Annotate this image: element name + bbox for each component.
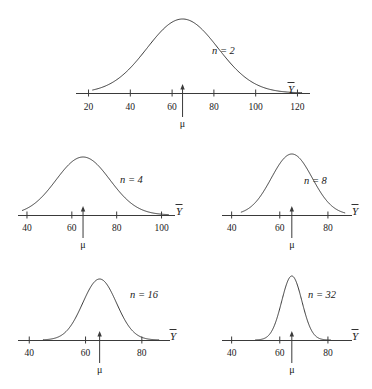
axis-tick-label: 80 [112, 223, 122, 233]
mu-arrow-head [290, 331, 294, 337]
svg-text:Y: Y [176, 205, 184, 217]
panel-n4: 406080100 μ n = 4 Y [0, 140, 190, 260]
mu-marker: μ [97, 331, 102, 375]
mu-label: μ [180, 118, 185, 129]
axis-tick-label: 80 [323, 223, 333, 233]
mu-marker: μ [289, 206, 294, 250]
mu-marker: μ [289, 331, 294, 375]
axis-tick-label: 40 [22, 223, 32, 233]
svg-text:Y: Y [170, 330, 178, 342]
mu-label: μ [80, 239, 85, 250]
axis-tick-label: 120 [290, 102, 305, 112]
curve-group-n2 [93, 19, 302, 93]
axis-tick-labels: 406080 [227, 348, 333, 358]
axis-tick-label: 60 [167, 102, 177, 112]
axis-tick-label: 40 [126, 102, 136, 112]
axis-tick-label: 60 [67, 223, 77, 233]
panel-n2: 20406080100120 μ n = 2 Y [0, 0, 372, 130]
sample-size-label: n = 8 [304, 175, 328, 186]
mu-arrow-head [180, 84, 184, 90]
y-bar-axis-label: Y [170, 330, 179, 343]
sampling-distribution-figure: 20406080100120 μ n = 2 Y 406080100 μ n =… [0, 0, 372, 389]
mu-marker: μ [180, 84, 185, 129]
axis-tick-labels: 406080100 [22, 223, 169, 233]
distribution-curve [241, 154, 345, 213]
axis-tick-label: 60 [81, 348, 91, 358]
axis-tick-label: 80 [137, 348, 147, 358]
axis-tick-labels: 406080 [25, 348, 147, 358]
mu-arrow-head [290, 206, 294, 212]
sample-size-label: n = 4 [120, 174, 144, 185]
axis-tick-label: 40 [227, 223, 237, 233]
axis-tick-label: 60 [275, 223, 285, 233]
distribution-curve [22, 157, 168, 215]
mu-label: μ [289, 239, 294, 250]
axis-tick-label: 40 [227, 348, 237, 358]
axis-tick-labels: 406080 [227, 223, 333, 233]
distribution-curve [93, 19, 302, 93]
axis-tick-label: 20 [84, 102, 94, 112]
axis-tick-labels: 20406080100120 [84, 102, 305, 112]
mu-label: μ [289, 364, 294, 375]
axis-tick-label: 60 [275, 348, 285, 358]
panel-n32: 406080 μ n = 32 Y [186, 262, 372, 389]
y-bar-axis-label: Y [176, 205, 185, 218]
axis-tick-label: 80 [209, 102, 219, 112]
mu-arrow-head [81, 206, 85, 212]
axis-tick-label: 40 [25, 348, 35, 358]
y-bar-axis-label: Y [352, 205, 361, 218]
mu-label: μ [97, 364, 102, 375]
mu-arrow-head [97, 331, 101, 337]
axis-tick-label: 100 [249, 102, 264, 112]
y-bar-axis-label: Y [352, 330, 361, 343]
sample-size-label: n = 16 [130, 289, 159, 300]
sample-size-label: n = 2 [212, 45, 236, 56]
axis-tick-label: 100 [154, 223, 169, 233]
mu-marker: μ [80, 206, 85, 250]
svg-text:Y: Y [352, 205, 360, 217]
svg-text:Y: Y [352, 330, 360, 342]
distribution-curve [256, 276, 331, 340]
panel-n16: 406080 μ n = 16 Y [0, 262, 190, 389]
axis-tick-label: 80 [323, 348, 333, 358]
panel-n8: 406080 μ n = 8 Y [186, 140, 372, 260]
sample-size-label: n = 32 [308, 289, 337, 300]
